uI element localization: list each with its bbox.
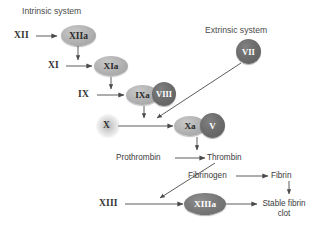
node-xiiia[interactable]: XIIIa <box>184 193 226 215</box>
extrinsic-system-title: Extrinsic system <box>205 25 267 35</box>
factor-xii-label: XII <box>14 30 29 40</box>
coagulation-cascade-diagram: Intrinsic system Extrinsic system XII XI… <box>0 0 312 228</box>
node-xiia[interactable]: XIIa <box>61 25 96 46</box>
factor-ix-label: IX <box>78 89 89 99</box>
node-xia[interactable]: XIa <box>94 56 128 76</box>
label-thrombin: Thrombin <box>207 153 242 163</box>
label-stable-fibrin-clot-line1: Stable fibrin <box>262 199 305 208</box>
intrinsic-system-title: Intrinsic system <box>22 6 81 16</box>
factor-xi-label: XI <box>48 60 59 70</box>
factor-x-label: X <box>103 120 110 130</box>
label-stable-fibrin-clot-line2: clot <box>278 209 291 218</box>
label-fibrinogen: Fibrinogen <box>188 171 227 181</box>
label-fibrin: Fibrin <box>271 171 291 181</box>
factor-xiii-label: XIII <box>99 198 118 208</box>
node-vii[interactable]: VII <box>236 39 261 64</box>
label-stable-fibrin-clot: Stable fibrin clot <box>258 199 310 219</box>
node-v[interactable]: V <box>200 113 225 138</box>
node-viii[interactable]: VIII <box>152 82 176 106</box>
label-prothrombin: Prothrombin <box>116 153 161 163</box>
